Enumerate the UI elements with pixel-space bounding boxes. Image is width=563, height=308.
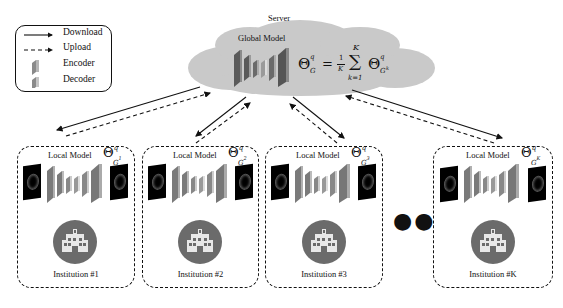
download-arrow-2 (196, 97, 246, 136)
output-scan-image (528, 166, 546, 203)
local-model-label: Local Model (296, 150, 340, 160)
institution-label: Institution #K (434, 269, 552, 279)
institution-1: Local Model Θq G1 Institution #1 (17, 146, 135, 288)
hospital-icon (471, 220, 515, 264)
download-arrow-k (352, 90, 502, 138)
output-scan-image (235, 164, 253, 201)
encoder-legend-icon (32, 60, 39, 75)
input-scan-image (440, 166, 458, 203)
download-arrow-1 (57, 87, 200, 130)
input-scan-image (148, 164, 166, 201)
local-model-network-icon (293, 161, 355, 205)
upload-arrow-1 (66, 93, 210, 136)
institution-k: Local Model Θq GK Institution #K (433, 146, 553, 288)
legend-decoder-label: Decoder (63, 74, 95, 84)
upload-arrow-2 (196, 103, 250, 143)
institution-label: Institution #1 (18, 269, 134, 279)
legend-encoder-label: Encoder (63, 58, 95, 68)
hospital-icon (302, 220, 346, 264)
legend: Download Upload Encoder Decoder (15, 25, 112, 92)
output-scan-image (358, 164, 376, 201)
global-model-network-icon (232, 45, 294, 87)
institution-label: Institution #3 (266, 269, 382, 279)
decoder-legend-icon (32, 77, 39, 88)
server-label: Server (268, 13, 290, 23)
local-model-label: Local Model (48, 150, 92, 160)
local-model-network-icon (45, 161, 107, 205)
input-scan-image (271, 164, 289, 201)
hospital-icon (178, 220, 222, 264)
hospital-icon (53, 220, 97, 264)
local-model-label: Local Model (173, 150, 217, 160)
download-arrow-3 (293, 97, 344, 138)
legend-download-label: Download (63, 27, 103, 37)
institution-label: Institution #2 (143, 269, 258, 279)
local-model-label: Local Model (466, 150, 510, 160)
local-model-network-icon (462, 161, 524, 205)
institution-2: Local Model Θq G2 Institution #2 (142, 146, 259, 288)
input-scan-image (23, 164, 41, 201)
global-model-label: Global Model (238, 33, 285, 43)
upload-arrow-3 (290, 104, 337, 143)
local-model-network-icon (170, 161, 232, 205)
legend-upload-label: Upload (63, 42, 91, 52)
output-scan-image (110, 164, 128, 201)
upload-arrow-k (346, 96, 494, 143)
institution-3: Local Model Θq G3 Institution #3 (265, 146, 383, 288)
